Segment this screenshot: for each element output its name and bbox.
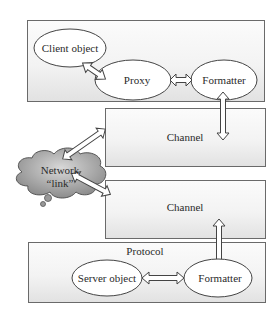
- channel-bottom-label: Channel: [167, 201, 204, 213]
- protocol-label: Protocol: [126, 245, 163, 257]
- network-label-line1: Network: [41, 164, 80, 176]
- formatter-bottom-label: Formatter: [198, 272, 241, 284]
- network-label-line2: “link”: [47, 177, 74, 189]
- channel-top-label: Channel: [167, 131, 204, 143]
- client-object-label: Client object: [42, 42, 99, 54]
- server-object-label: Server object: [78, 272, 136, 284]
- proxy-formatter-arrow: [170, 74, 192, 86]
- proxy-label: Proxy: [124, 74, 150, 86]
- formatter-top-label: Formatter: [202, 74, 245, 86]
- server-formatter-arrow: [142, 272, 184, 284]
- formatter-channel-arrow-top: [217, 92, 229, 140]
